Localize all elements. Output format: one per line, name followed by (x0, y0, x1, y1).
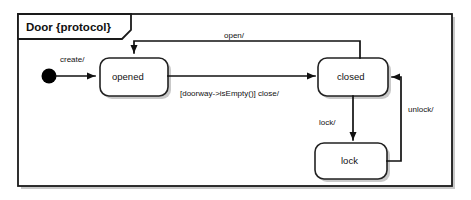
state-opened-label: opened (112, 71, 144, 82)
transition-lock-label: lock/ (319, 118, 336, 127)
transition-open-label: open/ (224, 31, 245, 40)
transition-create-label: create/ (60, 55, 85, 64)
initial-state-dot (42, 69, 57, 84)
transition-close-label: [doorway->isEmpty()] close/ (180, 89, 280, 98)
state-lock-label: lock (341, 155, 358, 166)
state-closed-label: closed (337, 71, 364, 82)
diagram-canvas: Door {protocol} create/ opened closed lo… (0, 0, 471, 200)
frame-title-label: Door {protocol} (26, 21, 111, 33)
state-machine-diagram: Door {protocol} create/ opened closed lo… (0, 0, 471, 200)
transition-unlock-label: unlock/ (408, 105, 434, 114)
